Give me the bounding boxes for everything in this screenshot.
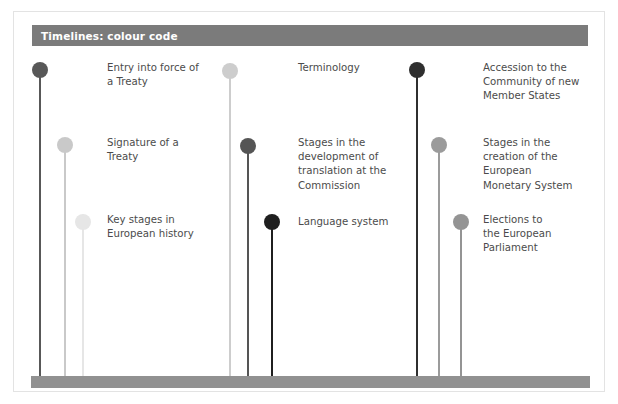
pin-head-icon-terminology (222, 63, 238, 79)
legend-label-entry-into-force: Entry into force of a Treaty (107, 61, 199, 89)
page-title: Timelines: colour code (32, 30, 178, 42)
pin-stem-signature-of-a-treaty (64, 145, 66, 377)
pin-stem-terminology (229, 71, 231, 377)
pin-head-icon-signature-of-a-treaty (57, 137, 73, 153)
legend-label-stages-translation-commission: Stages in the development of translation… (298, 136, 386, 193)
pin-head-icon-stages-creation-ems (431, 137, 447, 153)
pin-head-icon-language-system (264, 214, 280, 230)
pin-head-icon-stages-translation-commission (240, 138, 256, 154)
title-bar: Timelines: colour code (32, 25, 588, 46)
pin-head-icon-key-stages-european-history (75, 214, 91, 230)
pin-stem-stages-creation-ems (438, 145, 440, 377)
pin-head-icon-entry-into-force (32, 62, 48, 78)
legend-label-language-system: Language system (298, 215, 388, 229)
pin-stem-stages-translation-commission (247, 146, 249, 377)
pin-stem-accession-community-new-member-states (416, 70, 418, 377)
baseline-bar (31, 376, 590, 388)
legend-label-elections-european-parliament: Elections to the European Parliament (483, 213, 551, 256)
pin-stem-entry-into-force (39, 70, 41, 377)
pin-stem-elections-european-parliament (460, 222, 462, 377)
timeline-colour-code-figure: Timelines: colour code Entry into force … (0, 0, 618, 404)
legend-label-key-stages-european-history: Key stages in European history (107, 213, 194, 241)
legend-label-terminology: Terminology (298, 61, 360, 75)
pin-head-icon-elections-european-parliament (453, 214, 469, 230)
legend-label-accession-community-new-member-states: Accession to the Community of new Member… (483, 61, 579, 104)
pin-stem-language-system (271, 222, 273, 377)
legend-label-signature-of-a-treaty: Signature of a Treaty (107, 136, 179, 164)
pin-stem-key-stages-european-history (82, 222, 84, 377)
legend-label-stages-creation-ems: Stages in the creation of the European M… (483, 136, 572, 193)
pin-head-icon-accession-community-new-member-states (409, 62, 425, 78)
